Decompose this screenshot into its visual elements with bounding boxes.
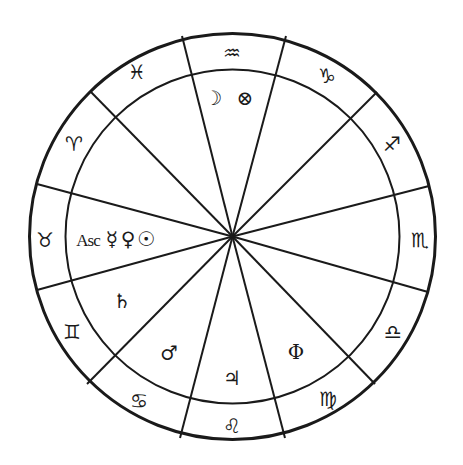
house-fifth: Φ	[288, 340, 304, 364]
gemini-sign-icon: ♊	[63, 320, 81, 344]
phi-icon: Φ	[288, 340, 304, 364]
astrological-chart: ♒♑♐♏♎♍♌♋♊♉♈♓ ☽⊗Asc☿♀☉♄♂♃Φ	[0, 0, 463, 465]
house-cusp-line-1	[182, 36, 233, 237]
pisces-sign-icon: ♓	[128, 60, 146, 84]
house-third: ♂	[160, 341, 178, 365]
jupiter-icon: ♃	[223, 366, 241, 390]
aquarius-sign-icon: ♒	[223, 41, 241, 65]
sun-icon: ☉	[137, 227, 155, 251]
scorpio-sign-icon: ♏	[411, 228, 429, 252]
house-cusp-line-8	[180, 237, 233, 439]
mercury-icon: ☿	[106, 227, 118, 251]
cancer-sign-icon: ♋	[130, 389, 148, 413]
capricorn-sign-icon: ♑	[318, 64, 336, 88]
sagittarius-sign-icon: ♐	[383, 132, 401, 156]
part-of-fortune-icon: ⊗	[237, 86, 254, 110]
house-upper: ☽⊗	[204, 86, 253, 110]
house-cusp-line-7	[233, 237, 286, 439]
house-cusp-line-12	[90, 91, 233, 237]
saturn-icon: ♄	[113, 289, 131, 313]
mars-icon: ♂	[160, 341, 178, 365]
taurus-sign-icon: ♉	[36, 228, 54, 252]
libra-sign-icon: ♎	[384, 320, 402, 344]
house-ascendant: Asc☿♀☉	[76, 227, 155, 251]
virgo-sign-icon: ♍	[319, 387, 337, 411]
house-cusp-line-2	[233, 36, 287, 237]
ascendant-label: Asc	[76, 231, 101, 250]
house-contents: ☽⊗Asc☿♀☉♄♂♃Φ	[76, 86, 304, 390]
leo-sign-icon: ♌	[223, 414, 241, 438]
aries-sign-icon: ♈	[65, 132, 83, 156]
house-second: ♄	[113, 289, 131, 313]
venus-icon: ♀	[121, 227, 136, 251]
house-fourth: ♃	[223, 366, 241, 390]
house-cusp-line-3	[233, 92, 378, 237]
moon-icon: ☽	[204, 86, 222, 110]
